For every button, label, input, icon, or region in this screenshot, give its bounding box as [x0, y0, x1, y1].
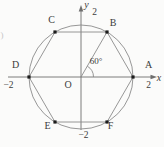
- vertex-marker-d: [27, 75, 30, 78]
- vertex-marker-c: [53, 30, 56, 33]
- point-label-c: C: [48, 14, 55, 25]
- point-label-b: B: [110, 17, 117, 28]
- y-axis-label: y: [83, 0, 89, 10]
- tick-label-y-negative: −2: [78, 130, 88, 140]
- cropped-text-artifact: ): [1, 30, 4, 40]
- hexagon-unit-circle-figure: ) 60° A B C D E F O x y 2 −2 2 −2: [0, 0, 164, 147]
- vertex-marker-a: [131, 75, 134, 78]
- vertex-marker-b: [105, 30, 108, 33]
- tick-label-y-positive: 2: [92, 7, 97, 17]
- tick-label-x-negative: −2: [3, 80, 13, 90]
- tick-label-x-positive: 2: [146, 80, 151, 90]
- origin-label: O: [64, 79, 71, 90]
- y-axis-arrow-icon: [79, 5, 84, 12]
- vertex-marker-e: [53, 120, 56, 123]
- point-label-f: F: [108, 120, 114, 131]
- angle-label: 60°: [90, 56, 103, 66]
- point-label-e: E: [44, 120, 50, 131]
- x-axis-label: x: [156, 72, 162, 83]
- point-label-d: D: [12, 59, 19, 70]
- radius-ob: [81, 32, 107, 77]
- angle-arc: [87, 66, 93, 77]
- point-label-a: A: [145, 59, 153, 70]
